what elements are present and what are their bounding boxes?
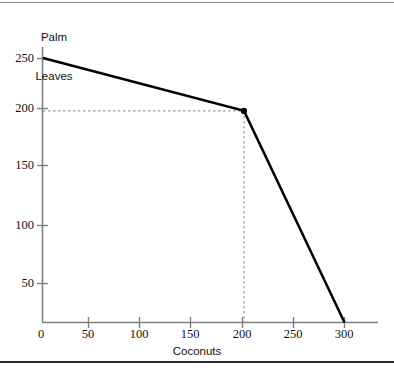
x-tick-label-100: 100	[119, 327, 159, 342]
x-axis-title: Coconuts	[0, 345, 394, 358]
y-tick-label-250: 250	[0, 51, 34, 66]
y-tick-label-50: 50	[0, 276, 34, 291]
x-tick-label-0: 0	[21, 327, 61, 342]
y-tick-label-100: 100	[0, 218, 34, 233]
x-tick-label-300: 300	[324, 327, 364, 342]
y-tick-label-150: 150	[0, 158, 34, 173]
y-tick-label-200: 200	[0, 101, 34, 116]
y-axis-title-line-1: Palm	[24, 31, 84, 44]
production-possibilities-chart: Palm Leaves Coconuts 250 200 150 100 50 …	[0, 0, 394, 376]
y-axis-title-line-2: Leaves	[24, 70, 84, 83]
kink-point-marker	[241, 108, 247, 114]
ppf-curve	[43, 58, 345, 323]
x-tick-label-250: 250	[273, 327, 313, 342]
x-tick-label-200: 200	[222, 327, 262, 342]
x-tick-label-150: 150	[170, 327, 210, 342]
x-tick-label-50: 50	[68, 327, 108, 342]
